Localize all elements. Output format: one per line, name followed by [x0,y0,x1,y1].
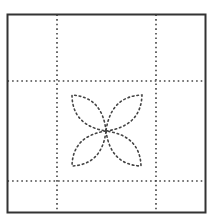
diagram-svg [0,0,211,220]
quilt-block-diagram [0,0,211,220]
background [0,0,211,220]
